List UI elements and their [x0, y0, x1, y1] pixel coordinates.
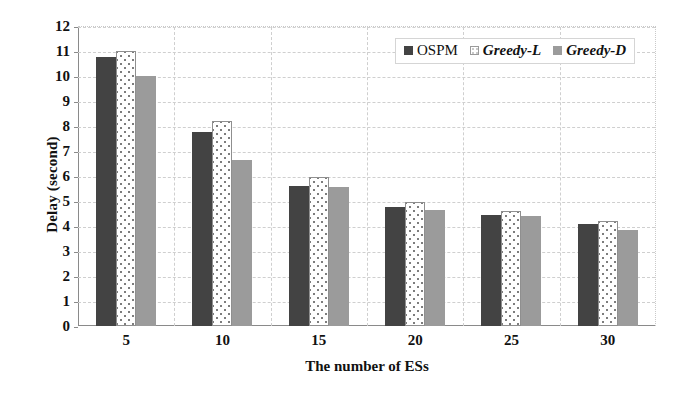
y-tick-label: 6 [63, 169, 71, 184]
bar-group [271, 27, 367, 326]
y-tick-label: 9 [63, 94, 71, 109]
x-tick-label: 25 [504, 332, 519, 349]
bar-greedy-l-30 [598, 221, 618, 326]
bar-greedy-d-30 [618, 230, 638, 326]
bar-greedy-l-15 [309, 177, 329, 326]
bar-ospm-15 [289, 186, 309, 326]
x-tick-label: 10 [215, 332, 230, 349]
x-tick-label: 30 [600, 332, 615, 349]
bar-group [560, 27, 656, 326]
y-axis-tick-labels: 0123456789101112 [26, 26, 70, 326]
legend-swatch-icon [470, 46, 479, 55]
y-tick-label: 8 [63, 119, 71, 134]
y-tick-label: 4 [63, 219, 71, 234]
bar-groups [78, 27, 655, 326]
delay-bar-chart: Delay (second) 0123456789101112 51015202… [0, 0, 676, 396]
bar-group [174, 27, 270, 326]
x-axis-tick-labels: 51015202530 [78, 332, 656, 356]
y-tick-label: 3 [63, 244, 71, 259]
legend-entry-greedy-l[interactable]: Greedy-L [470, 43, 541, 58]
bar-greedy-d-20 [425, 210, 445, 326]
legend-swatch-icon [404, 46, 413, 55]
bar-greedy-d-10 [232, 160, 252, 326]
bar-greedy-l-5 [116, 51, 136, 326]
bar-ospm-30 [578, 224, 598, 327]
y-tick-label: 7 [63, 144, 71, 159]
legend-label: Greedy-L [483, 43, 541, 58]
x-axis-title: The number of ESs [78, 358, 656, 375]
legend-label: Greedy-D [566, 43, 626, 58]
y-tick-label: 12 [55, 19, 70, 34]
bar-greedy-l-10 [212, 121, 232, 326]
y-tick-label: 2 [63, 269, 71, 284]
legend-entry-ospm[interactable]: OSPM [404, 43, 458, 58]
y-tick-label: 10 [55, 69, 70, 84]
bar-group [367, 27, 463, 326]
bar-ospm-10 [192, 132, 212, 326]
y-tick-label: 0 [63, 319, 71, 334]
y-tick-label: 5 [63, 194, 71, 209]
bar-greedy-d-15 [329, 187, 349, 326]
plot-area [78, 26, 656, 326]
bar-group [463, 27, 559, 326]
legend-entry-greedy-d[interactable]: Greedy-D [553, 43, 626, 58]
y-tick-mark [74, 327, 78, 328]
x-tick-label: 5 [122, 332, 130, 349]
x-tick-label: 20 [408, 332, 423, 349]
bar-greedy-l-20 [405, 202, 425, 326]
bar-greedy-d-25 [521, 216, 541, 326]
legend-label: OSPM [417, 43, 458, 58]
y-tick-label: 11 [56, 44, 70, 59]
legend-swatch-icon [553, 46, 562, 55]
bar-ospm-25 [481, 215, 501, 326]
x-tick-label: 15 [311, 332, 326, 349]
bar-greedy-d-5 [136, 76, 156, 326]
bar-group [78, 27, 174, 326]
bar-greedy-l-25 [501, 211, 521, 326]
bar-ospm-5 [96, 57, 116, 326]
bar-ospm-20 [385, 207, 405, 326]
y-tick-label: 1 [63, 294, 71, 309]
chart-legend: OSPMGreedy-LGreedy-D [395, 38, 635, 64]
